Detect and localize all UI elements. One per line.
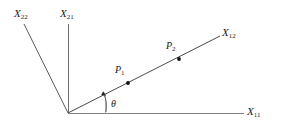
x22-axis-label-base: X xyxy=(14,7,21,19)
x11-axis-label: X11 xyxy=(247,106,260,117)
x22-axis-line xyxy=(24,24,68,113)
x21-axis-label-base: X xyxy=(60,7,67,19)
point-p2-label-subscript: 2 xyxy=(172,45,176,53)
point-p2-dot xyxy=(177,57,181,61)
x11-axis-label-base: X xyxy=(247,105,254,117)
x21-axis-label-subscript: 21 xyxy=(67,13,74,21)
point-p1-dot xyxy=(126,81,130,85)
x22-axis-label: X22 xyxy=(14,8,28,19)
x11-axis-label-subscript: 11 xyxy=(254,111,261,119)
point-p1-label-subscript: 1 xyxy=(121,69,125,77)
diagram-canvas xyxy=(0,0,282,125)
point-p1-label: P1 xyxy=(115,65,125,75)
x21-axis-label: X21 xyxy=(60,8,74,19)
x12-axis-label-base: X xyxy=(222,26,229,38)
vector-angle-diagram: X22 X21 X12 X11 P1 P2 θ xyxy=(0,0,282,125)
x22-axis-label-subscript: 22 xyxy=(21,13,28,21)
x12-axis-line xyxy=(68,36,220,113)
theta-arrowhead xyxy=(101,91,106,95)
x12-axis-label: X12 xyxy=(222,27,236,38)
x12-axis-label-subscript: 12 xyxy=(229,32,236,40)
point-p2-label: P2 xyxy=(166,41,176,51)
theta-angle-label: θ xyxy=(111,99,116,109)
